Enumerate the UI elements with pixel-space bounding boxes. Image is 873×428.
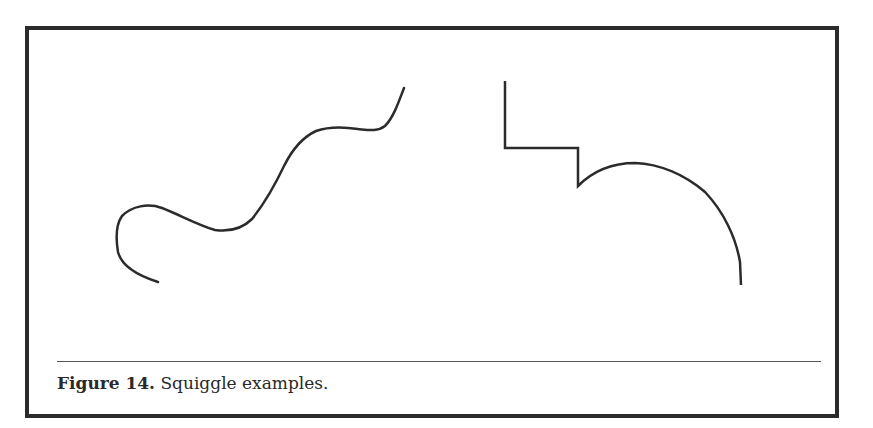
figure-drawings: [0, 0, 873, 428]
figure-caption: Figure 14. Squiggle examples.: [57, 373, 328, 393]
caption-divider: [57, 361, 821, 362]
figure-caption-text: Squiggle examples.: [155, 373, 328, 393]
figure-label: Figure 14.: [57, 373, 155, 393]
freehand-squiggle: [117, 88, 404, 282]
stepped-line-with-arc: [505, 81, 741, 285]
